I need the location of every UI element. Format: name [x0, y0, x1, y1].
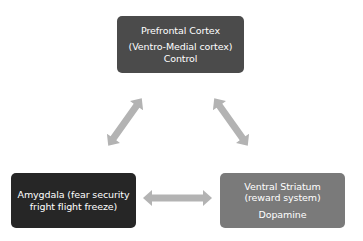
node-amygdala: Amygdala (fear security fright flight fr…	[11, 173, 136, 228]
node-function: Control	[164, 53, 198, 64]
arrow-amygdala-striatum	[143, 190, 212, 206]
node-prefrontal-cortex: Prefrontal Cortex (Ventro-Medial cortex)…	[117, 16, 244, 73]
node-subtitle: (reward system)	[244, 192, 320, 203]
node-title: Amygdala (fear security	[17, 189, 129, 200]
node-title: Prefrontal Cortex	[141, 25, 220, 36]
arrow-prefrontal-striatum	[208, 94, 255, 151]
node-subtitle: (Ventro-Medial cortex)	[129, 41, 233, 52]
node-ventral-striatum: Ventral Striatum (reward system) Dopamin…	[220, 173, 345, 228]
node-function: Dopamine	[259, 209, 307, 220]
arrow-prefrontal-amygdala	[102, 94, 149, 151]
node-subtitle: fright flight freeze)	[30, 201, 117, 212]
node-title: Ventral Striatum	[244, 181, 320, 192]
